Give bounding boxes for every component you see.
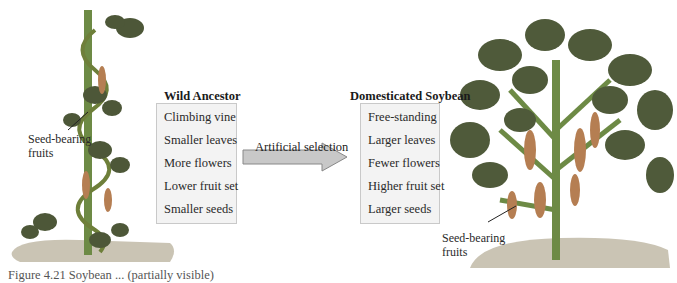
domesticated-trait: Larger seeds: [368, 202, 431, 217]
domesticated-trait: Larger leaves: [368, 133, 435, 148]
left-seed-label-line1: Seed-bearing: [28, 132, 91, 146]
left-seed-label-line2: fruits: [28, 146, 91, 160]
domesticated-traits-box: Free-standing Larger leaves Fewer flower…: [360, 103, 440, 224]
wild-trait: More flowers: [164, 156, 232, 171]
wild-trait: Climbing vine: [164, 110, 236, 125]
domesticated-title: Domesticated Soybean: [350, 89, 470, 104]
left-seed-label: Seed-bearing fruits: [28, 132, 91, 160]
wild-trait: Smaller leaves: [164, 133, 237, 148]
right-seed-label-line2: fruits: [442, 245, 505, 259]
figure-caption: Figure 4.21 Soybean ... (partially visib…: [8, 268, 214, 283]
arrow-label: Artificial selection: [255, 140, 348, 155]
domesticated-trait: Higher fruit set: [368, 179, 444, 194]
right-seed-label: Seed-bearing fruits: [442, 231, 505, 259]
wild-trait: Smaller seeds: [164, 202, 233, 217]
domesticated-trait: Fewer flowers: [368, 156, 440, 171]
wild-ancestor-title: Wild Ancestor: [164, 89, 241, 104]
right-seed-label-line1: Seed-bearing: [442, 231, 505, 245]
domesticated-trait: Free-standing: [368, 110, 437, 125]
wild-trait: Lower fruit set: [164, 179, 238, 194]
wild-traits-box: Climbing vine Smaller leaves More flower…: [156, 103, 237, 224]
right-stem: [552, 60, 560, 260]
